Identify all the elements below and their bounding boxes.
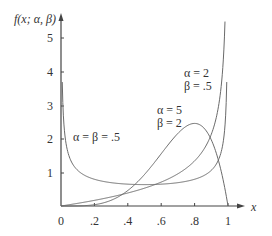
y-tick-label: 5	[47, 31, 53, 45]
x-tick-label: .8	[190, 214, 199, 228]
x-tick-label: .6	[157, 214, 166, 228]
x-tick-label: 0	[58, 214, 64, 228]
label-alpha-2: α = 2	[184, 66, 209, 80]
y-tick-label: 1	[47, 166, 53, 180]
label-alpha-beta-0.5: α = β = .5	[73, 130, 120, 144]
label-beta-0.5: β = .5	[184, 79, 212, 93]
label-beta-2: β = 2	[157, 116, 182, 130]
beta-density-chart: 5 4 3 2 1 0 .2 .4 .6 .8 1 f(x; α, β) x α…	[0, 0, 272, 236]
x-axis-arrow-icon	[237, 204, 245, 209]
y-axis-arrow-icon	[59, 13, 64, 21]
x-tick-label: 1	[225, 214, 231, 228]
y-tick-label: 2	[47, 132, 53, 146]
x-tick-label: .2	[90, 214, 99, 228]
x-axis-label: x	[250, 200, 257, 214]
label-alpha-5: α = 5	[157, 103, 182, 117]
y-tick-label: 3	[47, 99, 53, 113]
curve-alpha-2-beta-0.5	[61, 22, 225, 206]
x-tick-label: .4	[123, 214, 132, 228]
y-tick-label: 4	[47, 65, 53, 79]
y-axis-label: f(x; α, β)	[14, 12, 56, 26]
